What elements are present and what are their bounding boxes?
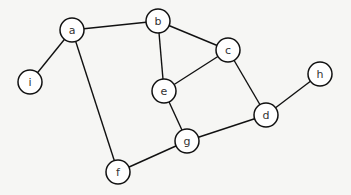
node-label: b [155, 15, 162, 28]
node-label: d [263, 109, 270, 122]
graph-diagram: abchiedgf [0, 0, 351, 195]
node-f: f [106, 160, 130, 184]
node-d: d [254, 103, 278, 127]
nodes-layer: abchiedgf [18, 9, 332, 184]
node-c: c [216, 38, 240, 62]
node-label: a [69, 24, 76, 37]
node-h: h [308, 62, 332, 86]
node-g: g [175, 129, 199, 153]
node-e: e [152, 79, 176, 103]
node-label: i [28, 76, 31, 89]
node-label: g [184, 135, 191, 148]
edge-a-f [72, 30, 118, 172]
node-i: i [18, 70, 42, 94]
node-label: c [225, 44, 231, 57]
node-a: a [60, 18, 84, 42]
node-label: h [317, 68, 324, 81]
node-label: e [161, 85, 168, 98]
edge-a-b [72, 21, 158, 30]
node-b: b [146, 9, 170, 33]
